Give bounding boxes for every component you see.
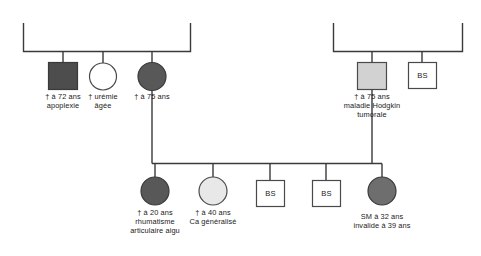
g2-children-group: BS BS xyxy=(141,164,396,207)
g1-right-bs-1-text: BS xyxy=(417,71,428,80)
label-line: Ca généralisé xyxy=(173,217,253,226)
g1-left-female-1-symbol xyxy=(90,63,117,90)
label-line: maladie Hodgkin xyxy=(322,101,422,110)
g1-right-family-group: BS xyxy=(334,23,463,90)
g2-child-4-text: BS xyxy=(321,189,332,198)
label-line: SM à 32 ans xyxy=(332,212,432,221)
label-line: tumorale xyxy=(322,110,422,119)
g1-left-female-2-symbol xyxy=(138,63,166,91)
g1-right-male-1-symbol xyxy=(358,63,387,90)
label-line: articulaire aigu xyxy=(110,226,200,235)
g1-left-family-group xyxy=(24,23,191,91)
label-line: † à 75 ans xyxy=(122,92,182,101)
g2-child-5-symbol xyxy=(368,177,396,205)
label-line: † à 75 ans xyxy=(322,92,422,101)
label-line: invalide à 39 ans xyxy=(332,221,432,230)
g1-left-sibship-bracket xyxy=(24,23,191,52)
g2-child-3-text: BS xyxy=(265,189,276,198)
pedigree-chart: BS BS xyxy=(0,0,481,256)
g1-right-sibship-bracket xyxy=(334,23,463,52)
g1-left-male-1-symbol xyxy=(49,63,78,90)
label-line: † à 40 ans xyxy=(173,208,253,217)
g2-child-5-label: SM à 32 ans invalide à 39 ans xyxy=(332,212,432,230)
label-line: âgée xyxy=(73,101,133,110)
g2-child-1-symbol xyxy=(141,177,169,205)
g2-child-2-label: † à 40 ans Ca généralisé xyxy=(173,208,253,226)
g2-child-2-symbol xyxy=(199,177,227,205)
g1-left-female-2-label: † à 75 ans xyxy=(122,92,182,101)
g1-right-male-1-label: † à 75 ans maladie Hodgkin tumorale xyxy=(322,92,422,119)
